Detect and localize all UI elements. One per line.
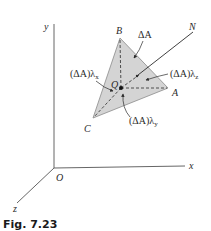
x-axis — [54, 166, 185, 168]
projection-y-label: (ΔA)λy — [129, 115, 158, 128]
y-axis-label: y — [43, 21, 49, 32]
figure-diagram: y x z O N Q B A C ΔA (ΔA)λx (ΔA)λz (ΔA)λ… — [0, 0, 211, 231]
area-label: ΔA — [138, 29, 152, 40]
vertex-c-label: C — [84, 123, 91, 134]
point-q — [119, 86, 123, 90]
figure-caption: Fig. 7.23 — [3, 218, 57, 231]
normal-dot — [136, 75, 138, 77]
vertex-a-label: A — [171, 87, 179, 98]
x-axis-label: x — [188, 160, 194, 171]
z-axis-label: z — [12, 203, 17, 214]
normal-label: N — [188, 21, 197, 32]
point-q-label: Q — [111, 79, 119, 90]
z-axis — [17, 168, 54, 203]
vertex-b-label: B — [116, 25, 122, 36]
origin-label: O — [56, 172, 63, 183]
area-element-triangle — [93, 38, 168, 118]
projection-z-label: (ΔA)λz — [170, 68, 198, 81]
projection-x-label: (ΔA)λx — [70, 68, 99, 81]
